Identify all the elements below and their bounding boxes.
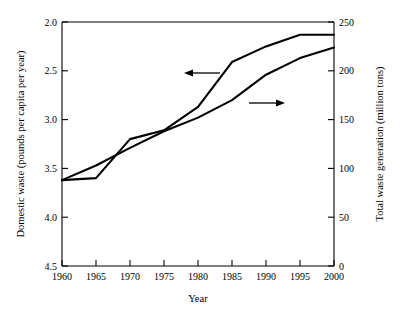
left-tick-label-5: 2.0: [45, 17, 58, 28]
left-axis-pointer-arrow: [184, 70, 220, 77]
right-tick-label-5: 250: [339, 17, 354, 28]
y2-axis-title: Total waste generation (million tons): [374, 66, 386, 221]
data-series-group: [62, 35, 334, 180]
series-total-waste-line: [62, 47, 334, 180]
x-tick-label-5: 1985: [222, 271, 242, 282]
left-tick-label-1: 4.0: [45, 212, 58, 223]
waste-generation-line-chart: 4.5 4.0 3.5 3.0 2.5 2.0 0 50 100 150 200…: [0, 0, 407, 322]
right-pointer-head: [276, 100, 285, 107]
x-tick-label-8: 2000: [324, 271, 344, 282]
x-tick-label-2: 1970: [120, 271, 140, 282]
left-tick-label-4: 2.5: [45, 65, 58, 76]
x-tick-label-7: 1995: [290, 271, 310, 282]
left-tick-label-2: 3.5: [45, 163, 58, 174]
left-tick-label-3: 3.0: [45, 114, 58, 125]
left-axis-tick-labels: 4.5 4.0 3.5 3.0 2.5 2.0: [45, 17, 58, 272]
right-axis-tick-labels: 0 50 100 150 200 250: [339, 17, 354, 272]
y-axis-title: Domestic waste (pounds per capita per ye…: [15, 50, 27, 238]
plot-frame: [62, 22, 334, 266]
x-tick-label-3: 1975: [154, 271, 174, 282]
x-axis-title: Year: [188, 293, 208, 304]
left-tick-label-0: 4.5: [45, 261, 58, 272]
right-tick-label-4: 200: [339, 65, 354, 76]
right-axis-pointer-arrow: [249, 100, 285, 107]
x-tick-label-4: 1980: [188, 271, 208, 282]
right-tick-label-1: 50: [339, 212, 349, 223]
right-tick-label-3: 150: [339, 114, 354, 125]
x-tick-label-6: 1990: [256, 271, 276, 282]
chart-figure: 4.5 4.0 3.5 3.0 2.5 2.0 0 50 100 150 200…: [0, 0, 407, 322]
x-axis-ticks: [62, 260, 334, 266]
left-axis-ticks: [62, 22, 68, 266]
series-domestic-waste-line: [62, 35, 334, 180]
right-tick-label-0: 0: [339, 261, 344, 272]
right-axis-ticks: [328, 22, 334, 266]
x-axis-tick-labels: 1960 1965 1970 1975 1980 1985 1990 1995 …: [52, 271, 344, 282]
left-pointer-head: [184, 70, 193, 77]
x-tick-label-1: 1965: [86, 271, 106, 282]
x-tick-label-0: 1960: [52, 271, 72, 282]
right-tick-label-2: 100: [339, 163, 354, 174]
